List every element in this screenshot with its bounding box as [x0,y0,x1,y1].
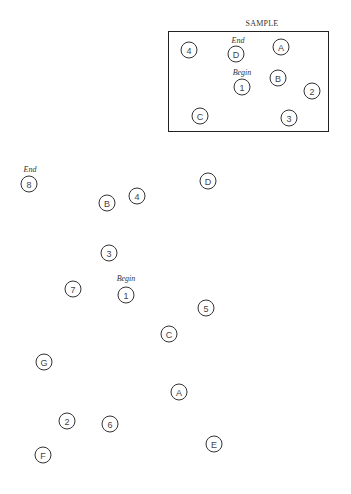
main-caption-begin: Begin [117,274,136,283]
main-node-e[interactable]: E [206,436,223,453]
sample-node-1[interactable]: 1 [234,79,251,96]
sample-node-4[interactable]: 4 [181,42,198,59]
main-node-6[interactable]: 6 [102,416,119,433]
main-node-d[interactable]: D [200,173,217,190]
main-node-a[interactable]: A [171,384,188,401]
main-node-8[interactable]: 8 [21,176,38,193]
main-node-2[interactable]: 2 [59,413,76,430]
main-node-5[interactable]: 5 [198,300,215,317]
main-node-4[interactable]: 4 [129,188,146,205]
sample-node-3[interactable]: 3 [281,110,298,127]
sample-node-d[interactable]: D [228,46,245,63]
sample-node-c[interactable]: C [192,108,209,125]
main-node-b[interactable]: B [99,195,116,212]
main-node-c[interactable]: C [161,326,178,343]
sample-caption-end: End [232,36,245,45]
main-node-g[interactable]: G [36,354,53,371]
sample-node-a[interactable]: A [273,39,290,56]
sample-node-b[interactable]: B [270,70,287,87]
main-node-1[interactable]: 1 [118,287,135,304]
sample-title: SAMPLE [232,19,292,28]
main-node-7[interactable]: 7 [65,281,82,298]
main-node-3[interactable]: 3 [101,245,118,262]
main-node-f[interactable]: F [35,447,52,464]
main-caption-end: End [24,165,37,174]
sample-node-2[interactable]: 2 [304,83,321,100]
sample-caption-begin: Begin [233,68,252,77]
